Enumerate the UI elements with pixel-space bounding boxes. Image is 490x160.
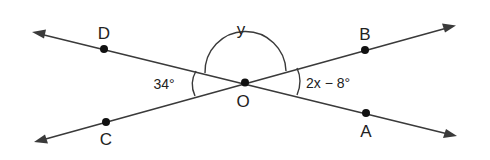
point-D [100, 45, 108, 53]
angle-label-y: y [237, 20, 246, 39]
arrowhead-upper-right-icon [442, 24, 456, 33]
angle-diagram: D C B A O y 34° 2x − 8° [0, 0, 490, 160]
label-B: B [359, 25, 370, 44]
arrowhead-lower-right-icon [443, 129, 457, 138]
label-D: D [98, 24, 110, 43]
arrowhead-upper-left-icon [32, 30, 46, 39]
angle-label-34: 34° [153, 76, 174, 92]
point-C [102, 118, 110, 126]
angle-label-2x-minus-8: 2x − 8° [306, 75, 350, 91]
point-O [241, 79, 249, 87]
angle-arc-34 [192, 71, 196, 96]
arrowhead-lower-left-icon [34, 135, 48, 144]
label-C: C [100, 130, 112, 149]
angle-arc-y [205, 31, 286, 73]
label-A: A [360, 122, 372, 141]
point-B [361, 46, 369, 54]
angle-arc-2x-minus-8 [297, 68, 300, 95]
label-O: O [236, 92, 249, 111]
point-A [362, 109, 370, 117]
